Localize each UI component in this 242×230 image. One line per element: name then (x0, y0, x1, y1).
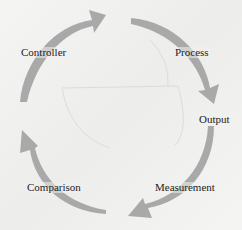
label-process: Process (174, 47, 210, 58)
curved-arrow-icon (128, 126, 214, 218)
curved-arrow-icon (20, 130, 106, 214)
curved-arrow-icon (131, 18, 219, 104)
label-output: Output (198, 114, 231, 125)
label-measurement: Measurement (154, 182, 216, 193)
label-controller: Controller (20, 47, 67, 58)
label-comparison: Comparison (26, 182, 82, 193)
faint-background-lines (62, 40, 183, 148)
control-loop-diagram: Controller Process Output Comparison Mea… (0, 0, 242, 230)
